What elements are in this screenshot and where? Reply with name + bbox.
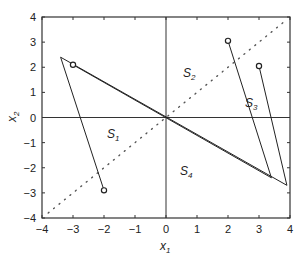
trajectory-2-line (73, 65, 271, 178)
region-label-s1: S1 (107, 127, 119, 143)
y-tick-label: 4 (30, 11, 36, 23)
y-tick-label: 2 (30, 61, 36, 73)
y-tick-label: −1 (23, 137, 36, 149)
trajectory-4-line (259, 66, 287, 185)
y-axis-label: x2 (5, 111, 21, 123)
trajectory-2-start-marker (70, 62, 75, 67)
x-tick-label: 0 (163, 223, 169, 235)
trajectory-1-start-marker (101, 188, 106, 193)
phase-plot: −4−3−2−101234−4−3−2−101234 S1S2S3S4 x1 x… (0, 0, 304, 264)
region-label-s2: S2 (183, 66, 196, 82)
axis-ticks: −4−3−2−101234−4−3−2−101234 (23, 11, 293, 235)
trajectory-4-start-marker (256, 63, 261, 68)
y-tick-label: −3 (23, 187, 36, 199)
x-tick-label: −3 (67, 223, 80, 235)
trajectories (61, 38, 287, 193)
region-label-s4: S4 (180, 164, 193, 180)
y-tick-label: 3 (30, 36, 36, 48)
region-labels: S1S2S3S4 (107, 66, 258, 180)
y-tick-label: 0 (30, 112, 36, 124)
y-tick-label: −2 (23, 162, 36, 174)
x-tick-label: 4 (287, 223, 293, 235)
x-axis-label: x1 (159, 239, 170, 255)
x-tick-label: 2 (225, 223, 231, 235)
region-label-s3: S3 (245, 96, 258, 112)
x-tick-label: −1 (129, 223, 142, 235)
x-tick-label: 1 (194, 223, 200, 235)
x-tick-label: −4 (36, 223, 49, 235)
x-tick-label: −2 (98, 223, 111, 235)
y-tick-label: −4 (23, 212, 36, 224)
trajectory-3-start-marker (225, 38, 230, 43)
y-tick-label: 1 (30, 86, 36, 98)
x-tick-label: 3 (256, 223, 262, 235)
